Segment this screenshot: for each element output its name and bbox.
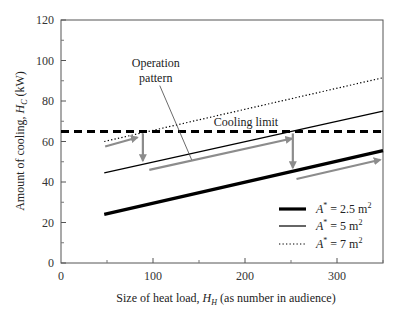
x-axis-ticks: 0100200300 [58,258,383,283]
y-tick-label: 100 [36,54,54,68]
x-tick-label: 300 [328,269,346,283]
operation-arrow [297,160,381,179]
y-axis-title: Amount of cooling, HC (kW) [13,71,29,211]
y-tick-label: 40 [42,175,54,189]
y-tick-label: 60 [42,135,54,149]
data-series [104,78,383,215]
operation-pattern-label: Operation [132,56,180,70]
y-tick-label: 120 [36,13,54,27]
x-tick-label: 100 [144,269,162,283]
operation-arrow [105,137,137,146]
legend-label: A* = 7 m2 [315,236,362,251]
operation-pattern-arrows [105,133,380,179]
legend-label: A* = 5 m2 [315,218,362,233]
y-tick-label: 0 [48,256,54,270]
x-axis-title: Size of heat load, HH (as number in audi… [116,291,335,307]
cooling-limit-line: Cooling limit [61,115,383,131]
chart: 020406080100120 0100200300 Cooling limit… [0,0,399,316]
x-tick-label: 0 [58,269,64,283]
legend: A* = 2.5 m2A* = 5 m2A* = 7 m2 [279,201,371,251]
y-tick-label: 80 [42,94,54,108]
x-tick-label: 200 [236,269,254,283]
operation-pattern-label: pattern [139,71,172,85]
cooling-limit-label: Cooling limit [214,115,279,129]
operation-arrow [149,138,292,169]
annotations: Operationpattern [132,56,192,160]
y-tick-label: 20 [42,216,54,230]
legend-label: A* = 2.5 m2 [315,201,371,216]
